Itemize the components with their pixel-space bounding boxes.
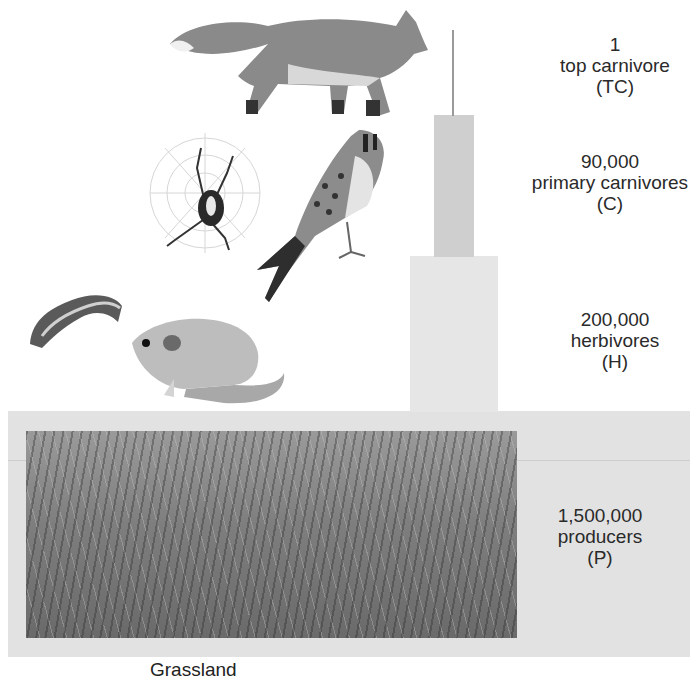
top-carnivore-bar: [452, 30, 454, 116]
h-abbr: (H): [560, 351, 670, 372]
primary-carnivores-bar: [434, 115, 474, 257]
p-name: producers: [545, 526, 655, 547]
fox-icon: [168, 4, 430, 120]
c-abbr: (C): [520, 193, 698, 214]
mouse-icon: [124, 313, 286, 409]
level-label-h: 200,000 herbivores (H): [560, 309, 670, 372]
grassland-photo: [26, 431, 517, 638]
herbivores-bar: [410, 256, 498, 412]
spider-icon: [145, 128, 265, 268]
level-label-p: 1,500,000 producers (P): [545, 505, 655, 568]
p-count: 1,500,000: [545, 505, 655, 526]
level-label-c: 90,000 primary carnivores (C): [520, 151, 698, 214]
level-label-tc: 1 top carnivore (TC): [560, 34, 670, 97]
h-name: herbivores: [560, 330, 670, 351]
tc-abbr: (TC): [560, 76, 670, 97]
c-name: primary carnivores: [520, 172, 698, 193]
caterpillar-icon: [22, 288, 130, 352]
c-count: 90,000: [520, 151, 698, 172]
h-count: 200,000: [560, 309, 670, 330]
tc-count: 1: [560, 34, 670, 55]
tc-name: top carnivore: [560, 55, 670, 76]
photo-caption: Grassland: [150, 659, 237, 680]
p-abbr: (P): [545, 547, 655, 568]
kestrel-icon: [255, 126, 395, 304]
